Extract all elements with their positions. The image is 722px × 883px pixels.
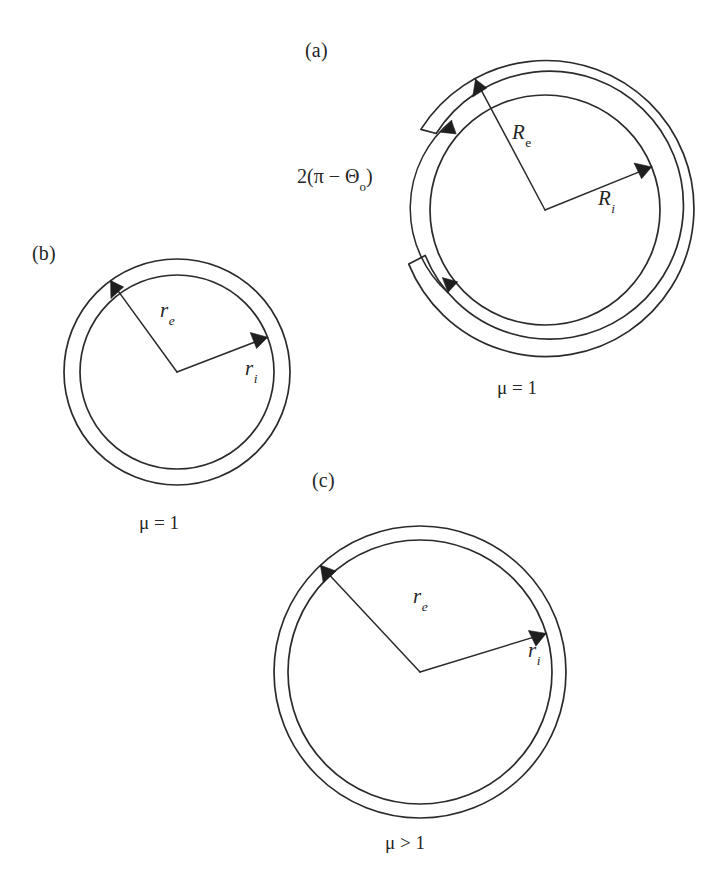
angle-annotation-minus: − xyxy=(324,165,345,187)
panel-c-graphics xyxy=(274,526,566,818)
radius-symbol: r xyxy=(528,638,536,662)
radius-subscript: e xyxy=(422,599,428,614)
panel-label-b: (b) xyxy=(32,243,56,263)
radius-label-b-inner: ri xyxy=(245,358,257,383)
radius-subscript: i xyxy=(537,653,541,668)
panel-a-outer-radius-arrow-shaft xyxy=(476,79,546,210)
radius-symbol: r xyxy=(160,298,168,322)
radius-label-c-inner: ri xyxy=(528,640,540,665)
angle-annotation-trail: ) xyxy=(366,165,373,187)
panel-caption-b: μ = 1 xyxy=(139,513,179,532)
radius-symbol: R xyxy=(512,120,525,144)
radius-label-a-outer: Re xyxy=(512,122,531,147)
angle-annotation-pi: π xyxy=(314,165,324,187)
radius-subscript: i xyxy=(611,201,615,216)
panel-label-c: (c) xyxy=(312,470,335,490)
panel-label-a: (a) xyxy=(305,40,328,60)
radius-label-b-outer: re xyxy=(160,300,174,325)
panel-c-outer-radius-arrow-shaft xyxy=(320,565,420,672)
radius-subscript: e xyxy=(169,313,175,328)
panel-a-outer-shell-outline xyxy=(409,61,694,357)
radius-symbol: R xyxy=(598,186,611,210)
panel-b-outer-radius-arrow-shaft xyxy=(111,281,177,372)
radius-label-c-outer: re xyxy=(413,586,427,611)
radius-label-a-inner: Ri xyxy=(598,188,615,213)
panel-caption-c: μ > 1 xyxy=(385,833,425,852)
panel-caption-a: μ = 1 xyxy=(497,378,537,397)
angle-annotation-theta-subscript: o xyxy=(360,179,367,194)
panel-a-outer-radius-arrowhead xyxy=(473,79,487,97)
diagram-canvas xyxy=(0,0,722,883)
panel-a-inner-radius-arrowhead xyxy=(634,163,652,179)
figure-root: (a) 2(π − Θo) Re Ri μ = 1 (b) re ri μ = … xyxy=(0,0,722,883)
panel-b-inner-radius-arrowhead xyxy=(250,333,267,349)
panel-a-graphics xyxy=(409,61,694,357)
radius-symbol: r xyxy=(245,356,253,380)
radius-subscript: e xyxy=(525,135,531,150)
radius-symbol: r xyxy=(413,584,421,608)
angle-annotation-theta: Θ xyxy=(345,165,359,187)
angle-annotation-lead: 2( xyxy=(297,165,314,187)
angle-annotation-a: 2(π − Θo) xyxy=(297,166,373,190)
radius-subscript: i xyxy=(254,371,258,386)
